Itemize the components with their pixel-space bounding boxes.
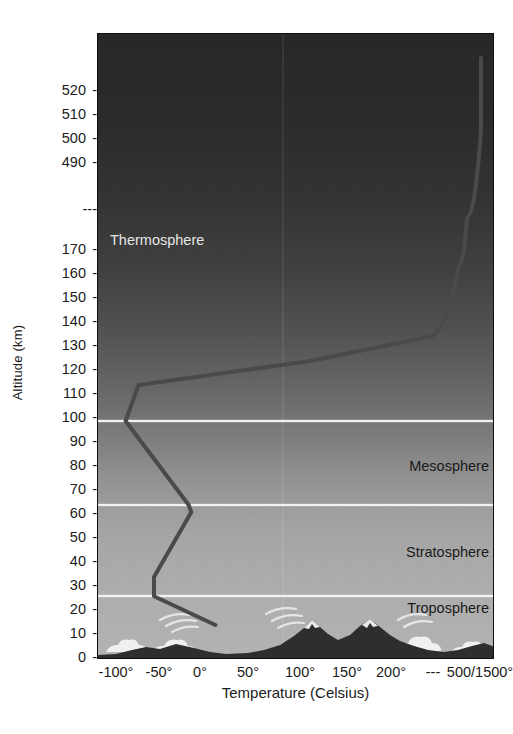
y-axis-tick-labels: 520-510-500-490----170-160-150-140-130-1…	[30, 33, 97, 659]
x-axis-title: Temperature (Celsius)	[97, 684, 494, 701]
x-axis-tick-100: 100°	[285, 662, 315, 682]
y-axis-tick-140: 140-	[62, 313, 97, 329]
y-axis-tick-520: 520-	[62, 82, 97, 98]
x-axis-tick-50: -50°	[146, 662, 173, 682]
y-axis-tick-30: 30-	[70, 577, 97, 593]
y-axis-tick-120: 120-	[62, 361, 97, 377]
layer-label-mesosphere: Mesosphere	[409, 458, 489, 474]
y-axis-tick-110: 110-	[63, 385, 97, 401]
y-axis-title: Altitude (km)	[10, 283, 25, 443]
y-axis-tick-20: 20-	[70, 601, 97, 617]
y-axis-tick-130: 130-	[62, 337, 97, 353]
x-axis-tick-5001500: 500/1500°	[447, 662, 513, 682]
atmosphere-temperature-profile-figure: Altitude (km) 520-510-500-490----170-160…	[0, 0, 513, 734]
temperature-curve	[98, 34, 494, 659]
y-axis-tick-150: 150-	[62, 289, 97, 305]
x-axis-tick-200: 200°	[376, 662, 406, 682]
y-axis-tick-40: 40-	[70, 553, 97, 569]
y-axis-tick-160: 160-	[62, 265, 97, 281]
y-axis-tick-0: 0-	[78, 649, 97, 665]
layer-label-thermosphere: Thermosphere	[110, 232, 489, 248]
x-axis-tick-0: 0°	[193, 662, 207, 682]
x-axis-tick-150: 150°	[332, 662, 362, 682]
x-axis-tick-100: -100°	[99, 662, 134, 682]
x-axis-tick-labels: -100°-50°0°50°100°150°200°---500/1500°	[97, 662, 494, 684]
y-axis-tick-100: 100-	[62, 409, 97, 425]
layer-label-troposphere: Troposphere	[407, 600, 489, 616]
y-axis-tick-10: 10-	[70, 625, 97, 641]
y-axis-tick-50: 50-	[70, 529, 97, 545]
y-axis-tick-90: 90-	[70, 433, 97, 449]
layer-label-stratosphere: Stratosphere	[406, 544, 489, 560]
y-axis-tick-510: 510-	[62, 106, 97, 122]
x-axis-tick-: ---	[426, 662, 441, 682]
y-axis-tick-80: 80-	[70, 457, 97, 473]
y-axis-tick-500: 500-	[62, 130, 97, 146]
y-axis-tick-break: ---	[83, 201, 98, 217]
x-axis-tick-50: 50°	[237, 662, 259, 682]
y-axis-tick-60: 60-	[70, 505, 97, 521]
y-axis-tick-70: 70-	[70, 481, 97, 497]
plot-area: Thermosphere Mesosphere Stratosphere Tro…	[97, 33, 494, 659]
y-axis-tick-170: 170-	[62, 241, 97, 257]
y-axis-tick-490: 490-	[62, 154, 97, 170]
